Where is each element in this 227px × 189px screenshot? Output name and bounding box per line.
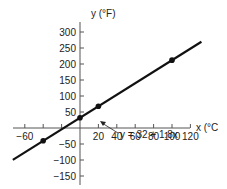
x-tick-label: −60 [16,131,33,142]
data-point [77,115,83,121]
ticks [25,32,191,176]
tick-labels: −602040608010012030025020015010050−50−10… [16,27,199,182]
y-axis-label: y (°F) [91,8,116,19]
x-axis-label: x (°C [196,122,218,133]
data-point [40,138,46,144]
y-tick-label: 300 [59,27,76,38]
equation-label: y = 32 + 1.8x [120,129,178,140]
y-tick-label: −100 [53,155,76,166]
x-tick-label: 20 [93,131,105,142]
y-tick-label: 50 [65,107,77,118]
y-tick-label: 250 [59,43,76,54]
temperature-conversion-chart: −602040608010012030025020015010050−50−10… [0,0,227,189]
data-point [96,103,102,109]
y-tick-label: −150 [53,171,76,182]
y-tick-label: 200 [59,59,76,70]
data-point [169,57,175,63]
y-tick-label: 150 [59,75,76,86]
y-tick-label: 100 [59,91,76,102]
y-tick-label: −50 [59,139,76,150]
